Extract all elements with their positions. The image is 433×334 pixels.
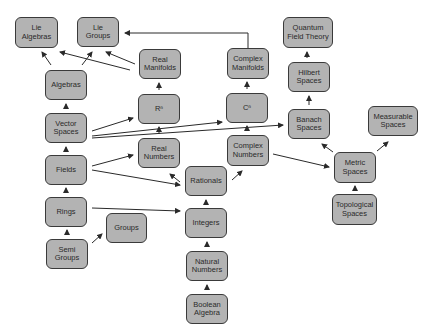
node-qft: Quantum Field Theory [283, 17, 333, 48]
node-vector-spaces: Vector Spaces [45, 113, 87, 143]
edge-fields-to-real-numbers [92, 155, 133, 166]
node-measurable: Measurable Spaces [368, 106, 418, 136]
node-rings: Rings [45, 197, 87, 227]
node-real-manifolds: Real Manifolds [139, 49, 181, 79]
edge-metric-to-measurable [377, 142, 388, 151]
node-rn: Rⁿ [138, 94, 180, 124]
edge-complex-numbers-to-metric [273, 154, 329, 167]
node-boolean-algebra: Boolean Algebra [186, 294, 228, 324]
node-fields: Fields [45, 155, 87, 185]
node-lie-groups: Lie Groups [77, 17, 119, 47]
node-metric: Metric Spaces [334, 152, 376, 183]
edge-rationals-to-real-numbers [170, 174, 180, 182]
node-complex-numbers: Complex Numbers [227, 135, 269, 166]
node-algebras: Algebras [45, 70, 87, 100]
node-integers: Integers [185, 208, 227, 238]
edge-semi-groups-to-groups [92, 234, 102, 243]
node-lie-algebras: Lie Algebras [15, 17, 58, 48]
node-hilbert: Hilbert Spaces [288, 62, 330, 92]
edge-rationals-to-complex-numbers [232, 171, 242, 180]
node-semi-groups: Semi Groups [46, 239, 88, 269]
node-real-numbers: Real Numbers [138, 138, 180, 168]
node-banach: Banach Spaces [288, 109, 330, 139]
edge-metric-to-banach [322, 144, 333, 152]
node-topological: Topological Spaces [332, 194, 377, 225]
node-rationals: Rationals [185, 166, 227, 196]
edge-rings-to-integers [92, 208, 180, 211]
edge-real-manifolds-to-lie-groups [106, 52, 135, 64]
edge-vector-spaces-to-rn [92, 118, 133, 131]
node-complex-manifolds: Complex Manifolds [227, 48, 269, 79]
edge-algebras-to-lie-algebras [42, 52, 51, 65]
node-natural-numbers: Natural Numbers [186, 251, 228, 281]
diagram-canvas: Lie AlgebrasLie GroupsReal ManifoldsComp… [0, 0, 433, 334]
edge-complex-manifolds-to-lie-groups [125, 33, 248, 48]
node-groups: Groups [106, 213, 147, 243]
edge-real-manifolds-to-lie-algebras [60, 52, 130, 70]
edge-fields-to-rationals [92, 170, 180, 185]
node-cn: Cⁿ [226, 93, 268, 123]
